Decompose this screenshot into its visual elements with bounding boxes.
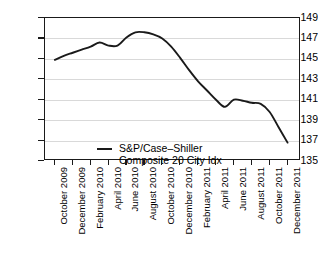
series-line-case-shiller [45, 18, 301, 161]
x-axis-tick-label: February 2011 [201, 167, 212, 228]
legend-swatch-case-shiller [97, 148, 112, 150]
x-axis-tick-mark [179, 160, 180, 165]
x-axis-tick-mark [72, 160, 73, 165]
x-axis-tick-label: December 2011 [291, 167, 302, 234]
series-path [55, 32, 288, 143]
plot-area: S&P/Case–Shiller Composite 20 City Idx [44, 17, 300, 160]
x-axis-tick-label: October 2009 [58, 167, 69, 225]
chart-figure: 149147145143141139137135 S&P/Case–Shille… [0, 0, 318, 258]
x-axis-tick-label: April 2010 [112, 167, 123, 210]
x-axis-tick-label: August 2011 [255, 167, 266, 220]
x-axis-tick-label: October 2010 [165, 167, 176, 225]
x-axis-tick-mark [197, 160, 198, 165]
x-axis-tick-mark [233, 160, 234, 165]
x-axis-tick-label: June 2011 [237, 167, 248, 211]
x-axis-tick-mark [287, 160, 288, 165]
y-axis-tick-mark [38, 160, 44, 161]
x-axis-tick-mark [251, 160, 252, 165]
x-axis-tick-label: February 2010 [94, 167, 105, 229]
x-axis-tick-label: October 2011 [273, 167, 284, 224]
x-axis-tick-label: June 2010 [129, 167, 140, 211]
x-axis-tick-mark [215, 160, 216, 165]
chart-legend: S&P/Case–Shiller Composite 20 City Idx [97, 143, 222, 166]
x-axis-tick-mark [143, 160, 144, 165]
x-axis-tick-mark [269, 160, 270, 165]
x-axis-tick-label: April 2011 [219, 167, 230, 209]
x-axis-tick-mark [90, 160, 91, 165]
x-axis-tick-mark [161, 160, 162, 165]
x-axis-tick-label: December 2009 [76, 167, 87, 235]
x-axis-tick-mark [125, 160, 126, 165]
x-axis-tick-label: August 2010 [147, 167, 158, 220]
x-axis-tick-mark [108, 160, 109, 165]
legend-label-case-shiller: S&P/Case–Shiller Composite 20 City Idx [119, 143, 222, 166]
x-axis-tick-mark [54, 160, 55, 165]
x-axis-tick-label: December 2010 [183, 167, 194, 235]
